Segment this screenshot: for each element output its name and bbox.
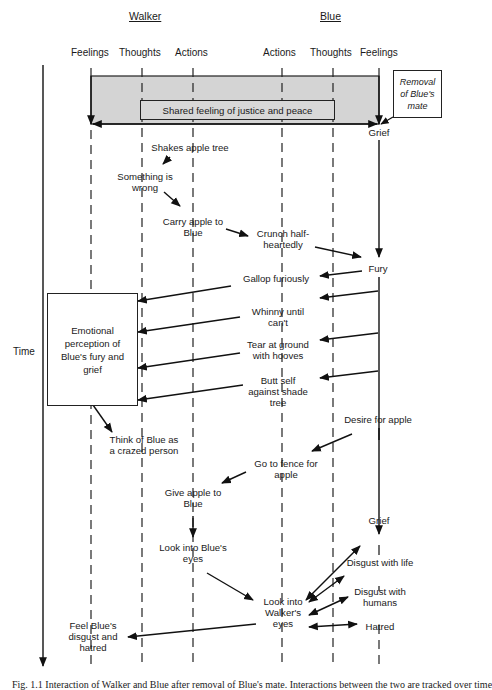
node-butt-self: Butt self against shade tree [242, 375, 314, 408]
time-label: Time [13, 346, 35, 357]
blue-thoughts-header: Thoughts [310, 47, 352, 58]
node-carry-apple: Carry apple to Blue [157, 216, 229, 238]
node-grief-2: Grief [364, 515, 394, 526]
actor-blue: Blue [320, 10, 341, 22]
node-think-of-blue: Think of Blue as a crazed person [103, 434, 185, 456]
shared-feeling-box: Shared feeling of justice and peace [140, 100, 335, 120]
node-disgust-humans: Disgust with humans [348, 586, 412, 608]
walker-thoughts-header: Thoughts [119, 47, 161, 58]
node-hatred: Hatred [360, 621, 400, 632]
node-feel-disgust: Feel Blue's disgust and hatred [60, 620, 126, 653]
node-go-to-fence: Go to fence for apple [246, 458, 326, 480]
node-fury: Fury [363, 263, 393, 274]
walker-feelings-header: Feelings [71, 47, 109, 58]
node-gallop: Gallop furiously [236, 273, 316, 284]
emotional-perception-box: Emotional perception of Blue's fury and … [47, 293, 138, 406]
node-tear-ground: Tear at ground with hooves [242, 339, 314, 361]
node-grief-1: Grief [364, 127, 394, 138]
node-something-wrong: Something is wrong [110, 171, 180, 193]
node-whinny: Whinny until can't [242, 306, 314, 328]
node-look-walker-eyes: Look into Walker's eyes [258, 596, 308, 629]
node-shakes-apple-tree: Shakes apple tree [145, 142, 235, 153]
node-crunch: Crunch half- heartedly [250, 228, 316, 250]
actor-walker: Walker [129, 10, 161, 22]
node-look-blue-eyes: Look into Blue's eyes [153, 542, 233, 564]
blue-actions-header: Actions [263, 47, 296, 58]
node-give-apple: Give apple to Blue [158, 487, 228, 509]
figure-caption: Fig. 1.1 Interaction of Walker and Blue … [12, 679, 492, 690]
trigger-box: Removal of Blue's mate [393, 70, 442, 118]
blue-feelings-header: Feelings [360, 47, 398, 58]
walker-actions-header: Actions [175, 47, 208, 58]
node-disgust-life: Disgust with life [340, 557, 420, 568]
node-desire-apple: Desire for apple [336, 414, 420, 425]
